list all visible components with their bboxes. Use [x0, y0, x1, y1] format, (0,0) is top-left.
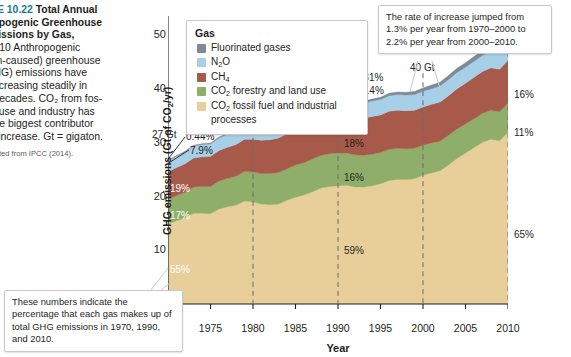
- caption-body-line-5: nt decades. CO₂ from fos-: [0, 93, 142, 106]
- chart-legend: Gas Fluorinated gasesN2OCH4CO2 forestry …: [186, 20, 368, 135]
- legend-swatch-icon: [197, 87, 206, 96]
- y-tick-label: 20: [126, 190, 166, 202]
- legend-item-2: CH4: [195, 71, 360, 84]
- caption-body-line-8: his increase. Gt = gigaton.: [0, 131, 142, 144]
- legend-item-label: CO2 fossil fuel and industrial processes: [211, 100, 360, 126]
- pct-1970-ch4: 19%: [170, 183, 190, 194]
- legend-item-label: CO2 forestry and land use: [211, 85, 326, 98]
- legend-title: Gas: [195, 27, 360, 39]
- legend-swatch-icon: [197, 58, 206, 67]
- callout-percentage-explanation: These numbers indicate the percentage th…: [4, 290, 183, 352]
- caption-title-part-1: Total Annual: [36, 4, 98, 15]
- y-tick-label: 50: [126, 28, 166, 40]
- pct-1990-co2-fossil: 59%: [344, 245, 364, 256]
- y-tick-label: 10: [126, 243, 166, 255]
- legend-item-label: N2O: [211, 56, 230, 69]
- caption-body-line-4: n increasing steadily in: [0, 80, 142, 93]
- legend-swatch-icon: [197, 73, 206, 82]
- caption-body-line-2: man-caused) greenhouse: [0, 55, 142, 68]
- pct-1970-n2o: 7.9%: [190, 145, 213, 156]
- x-axis-title: Year: [168, 342, 508, 354]
- caption-body-line-1: –2010 Anthropogenic: [0, 42, 142, 55]
- legend-item-label: Fluorinated gases: [211, 42, 291, 54]
- pct-2010-co2-land: 11%: [514, 127, 533, 138]
- pct-1990-co2-land: 16%: [344, 172, 364, 183]
- figure-number: URE 10.22: [0, 4, 33, 15]
- caption-title-line-1: URE 10.22 Total Annual: [0, 4, 142, 17]
- pct-2010-co2-fossil: 65%: [514, 229, 534, 240]
- caption-title-line-3: Emissions by Gas,: [0, 29, 142, 42]
- y-tick-label: 40: [126, 82, 166, 94]
- legend-item-3: CO2 forestry and land use: [195, 85, 360, 98]
- caption-source: adapted from IPCC (2014).: [0, 149, 142, 158]
- x-tick-label: 1985: [284, 322, 307, 334]
- x-tick-label: 1990: [326, 322, 349, 334]
- pct-2010-ch4: 16%: [514, 89, 534, 100]
- x-tick-label: 1980: [241, 322, 264, 334]
- caption-body-line-3: (GHG) emissions have: [0, 67, 142, 80]
- total-label-2000: 40 Gt: [410, 62, 434, 73]
- legend-item-4: CO2 fossil fuel and industrial processes: [195, 100, 360, 126]
- x-tick-label: 2010: [496, 322, 519, 334]
- x-tick-label: 1975: [199, 322, 222, 334]
- caption-body-line-6: uel use and industry has: [0, 106, 142, 119]
- x-tick-label: 2000: [411, 322, 434, 334]
- figure-caption: URE 10.22 Total Annual hropogenic Greenh…: [0, 4, 142, 158]
- x-tick-label: 2005: [454, 322, 477, 334]
- legend-item-0: Fluorinated gases: [195, 42, 360, 54]
- legend-item-label: CH4: [211, 71, 229, 84]
- pct-1990-ch4: 18%: [344, 138, 364, 149]
- legend-item-1: N2O: [195, 56, 360, 69]
- pct-1970-co2-land: 17%: [170, 210, 190, 221]
- legend-swatch-icon: [197, 44, 206, 53]
- pct-1970-co2-fossil: 55%: [170, 264, 190, 275]
- total-label-1970: 27 Gt: [152, 129, 176, 140]
- legend-items: Fluorinated gasesN2OCH4CO2 forestry and …: [195, 42, 360, 126]
- caption-body-line-7: n the biggest contributor: [0, 118, 142, 131]
- legend-swatch-icon: [197, 102, 206, 111]
- caption-title-line-2: hropogenic Greenhouse: [0, 17, 142, 30]
- x-tick-label: 1995: [369, 322, 392, 334]
- callout-rate-of-increase: The rate of increase jumped from 1.3% pe…: [378, 5, 552, 54]
